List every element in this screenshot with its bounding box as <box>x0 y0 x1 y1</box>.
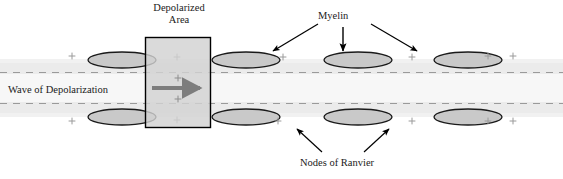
nodes-arrow-left-icon <box>297 129 322 152</box>
myelin-oval <box>324 52 392 68</box>
myelin-oval <box>434 52 502 68</box>
neuron-saltatory-conduction-diagram: Depolarized Area Myelin Wave of Depolari… <box>0 0 563 179</box>
depolarized-area-label: Depolarized Area <box>145 2 213 26</box>
depolarized-area-label-line2: Area <box>145 14 213 26</box>
myelin-oval <box>324 109 392 125</box>
wave-of-depolarization-label: Wave of Depolarization <box>8 84 108 96</box>
nodes-of-ranvier-pointer-arrows <box>297 129 389 152</box>
nodes-of-ranvier-label: Nodes of Ranvier <box>300 157 374 169</box>
depolarized-area-label-line1: Depolarized <box>145 2 213 14</box>
myelin-oval <box>434 109 502 125</box>
depolarized-area-rect <box>146 38 211 128</box>
depolarized-area-box <box>146 38 211 128</box>
myelin-pointer-arrows <box>273 24 417 51</box>
plus-sign-icon <box>409 118 415 124</box>
plus-sign-icon <box>69 53 75 59</box>
myelin-oval <box>212 52 280 68</box>
myelin-arrow-left-icon <box>273 24 318 51</box>
plus-sign-icon <box>69 118 75 124</box>
nodes-arrow-right-icon <box>364 129 389 152</box>
myelin-arrow-right-icon <box>371 24 417 51</box>
myelin-label: Myelin <box>318 10 348 22</box>
plus-sign-icon <box>510 53 516 59</box>
plus-sign-icon <box>510 118 516 124</box>
myelin-oval <box>212 109 280 125</box>
